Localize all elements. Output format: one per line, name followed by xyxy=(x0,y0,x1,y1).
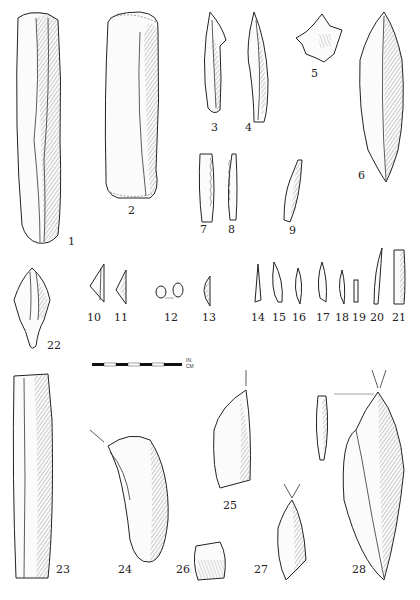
artifact-16 xyxy=(295,268,301,304)
label-21: 21 xyxy=(392,312,406,323)
artifact-21 xyxy=(394,250,405,304)
artifact-11 xyxy=(116,270,126,304)
label-7: 7 xyxy=(200,224,207,235)
label-26: 26 xyxy=(176,564,190,575)
label-11: 11 xyxy=(114,312,128,323)
artifact-17 xyxy=(318,262,326,302)
label-20: 20 xyxy=(370,312,384,323)
artifact-27 xyxy=(278,484,306,580)
label-17: 17 xyxy=(316,312,330,323)
label-28: 28 xyxy=(352,564,366,575)
artifact-26 xyxy=(194,542,225,580)
artifact-18 xyxy=(339,270,344,304)
artifact-8 xyxy=(228,154,237,220)
label-14: 14 xyxy=(251,312,265,323)
artifact-15 xyxy=(273,262,283,302)
label-1: 1 xyxy=(68,236,75,247)
artifact-7 xyxy=(199,154,214,222)
label-4: 4 xyxy=(245,122,252,133)
label-6: 6 xyxy=(358,170,365,181)
artifact-22 xyxy=(14,268,50,348)
label-13: 13 xyxy=(202,312,216,323)
artifact-10 xyxy=(90,264,104,302)
label-9: 9 xyxy=(289,225,296,236)
lithic-plate xyxy=(0,0,420,600)
label-12: 12 xyxy=(164,312,178,323)
artifact-1 xyxy=(17,13,61,244)
scale-bar xyxy=(92,363,182,366)
label-24: 24 xyxy=(118,564,132,575)
label-10: 10 xyxy=(87,312,101,323)
artifact-25 xyxy=(214,370,251,488)
label-3: 3 xyxy=(211,122,218,133)
label-18: 18 xyxy=(335,312,349,323)
artifact-24 xyxy=(90,430,168,562)
artifact-3 xyxy=(204,12,226,113)
artifact-5 xyxy=(296,14,342,62)
artifact-9 xyxy=(284,160,302,222)
label-19: 19 xyxy=(352,312,366,323)
artifact-4 xyxy=(248,12,268,122)
artifact-6 xyxy=(360,12,404,182)
artifact-12 xyxy=(156,283,183,298)
label-8: 8 xyxy=(228,224,235,235)
artifact-14 xyxy=(255,264,261,302)
label-22: 22 xyxy=(47,340,61,351)
label-16: 16 xyxy=(292,312,306,323)
scale-unit-cm: CM xyxy=(186,364,194,370)
artifact-23 xyxy=(13,374,52,578)
artifact-20 xyxy=(374,248,382,304)
label-23: 23 xyxy=(56,564,70,575)
label-25: 25 xyxy=(223,500,237,511)
artifact-13 xyxy=(204,276,210,306)
artifact-19 xyxy=(354,280,358,302)
label-27: 27 xyxy=(254,564,268,575)
label-5: 5 xyxy=(311,68,318,79)
label-15: 15 xyxy=(272,312,286,323)
label-2: 2 xyxy=(128,205,135,216)
artifact-28 xyxy=(316,370,404,580)
artifact-2 xyxy=(105,12,158,198)
